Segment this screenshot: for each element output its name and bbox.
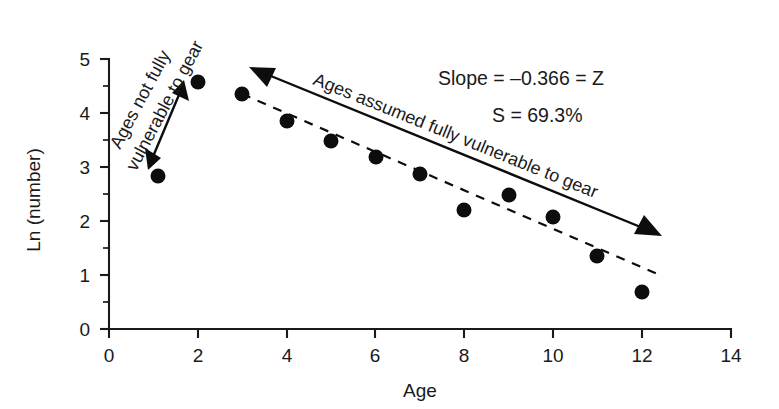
x-axis-title: Age xyxy=(403,380,437,401)
data-point xyxy=(457,203,472,218)
x-tick-label-0: 0 xyxy=(104,345,115,366)
slope-label: Slope = –0.366 = Z xyxy=(438,67,604,89)
x-tick-label-14: 14 xyxy=(720,345,742,366)
data-point xyxy=(590,249,605,264)
catch-curve-figure: 0 1 2 3 4 5 0 2 4 6 8 10 12 14 Age Ln (n… xyxy=(0,0,779,409)
y-tick-label-4: 4 xyxy=(79,103,90,124)
data-point xyxy=(151,169,166,184)
y-tick-label-2: 2 xyxy=(79,211,90,232)
x-tick-label-10: 10 xyxy=(542,345,563,366)
not-fully-vulnerable-label: Ages not fully vulnerable to gear xyxy=(106,37,207,174)
y-axis-title: Ln (number) xyxy=(23,148,44,252)
y-tick-label-0: 0 xyxy=(79,319,90,340)
x-tick-label-6: 6 xyxy=(370,345,381,366)
y-tick-label-3: 3 xyxy=(79,157,90,178)
y-tick-label-5: 5 xyxy=(79,49,90,70)
fully-vulnerable-arrow xyxy=(249,67,662,236)
data-point xyxy=(191,75,206,90)
survival-label: S = 69.3% xyxy=(492,104,583,126)
x-tick-label-2: 2 xyxy=(193,345,204,366)
fully-vulnerable-label: Ages assumed fully vulnerable to gear xyxy=(311,69,601,202)
data-point xyxy=(546,210,561,225)
y-tick-label-1: 1 xyxy=(79,265,90,286)
chart-canvas: 0 1 2 3 4 5 0 2 4 6 8 10 12 14 Age Ln (n… xyxy=(0,0,779,409)
data-point xyxy=(235,87,250,102)
x-tick-label-8: 8 xyxy=(459,345,470,366)
y-axis-tick-labels: 0 1 2 3 4 5 xyxy=(79,49,90,340)
x-axis-major-ticks xyxy=(109,329,731,338)
data-point xyxy=(369,150,384,165)
data-point xyxy=(413,167,428,182)
data-point xyxy=(280,114,295,129)
data-point xyxy=(635,285,650,300)
x-tick-label-12: 12 xyxy=(631,345,652,366)
x-axis-tick-labels: 0 2 4 6 8 10 12 14 xyxy=(104,345,742,366)
data-point xyxy=(502,188,517,203)
statistics-block: Slope = –0.366 = Z S = 69.3% xyxy=(438,67,604,126)
data-point xyxy=(324,134,339,149)
x-tick-label-4: 4 xyxy=(282,345,293,366)
